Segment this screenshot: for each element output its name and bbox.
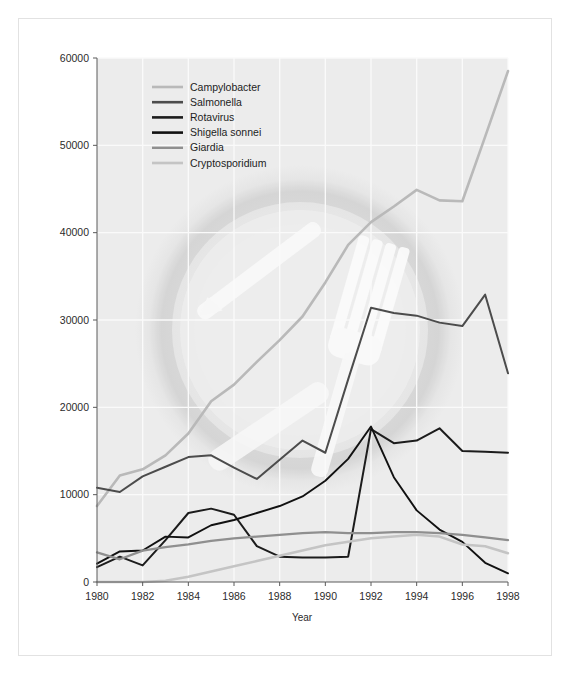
legend-label-salmonella: Salmonella bbox=[190, 96, 242, 108]
y-tick-label: 60000 bbox=[60, 52, 89, 64]
x-tick-label: 1990 bbox=[314, 590, 338, 602]
x-tick-label: 1986 bbox=[222, 590, 246, 602]
y-tick-label: 0 bbox=[83, 576, 89, 588]
x-tick-label: 1988 bbox=[268, 590, 292, 602]
x-tick-label: 1982 bbox=[131, 590, 155, 602]
x-tick-label: 1994 bbox=[405, 590, 429, 602]
page-root: 0100002000030000400005000060000 19801982… bbox=[0, 0, 570, 677]
x-axis-title: Year bbox=[292, 612, 313, 623]
x-axis-tick-labels: 1980198219841986198819901992199419961998 bbox=[85, 582, 520, 602]
chart-svg: 0100002000030000400005000060000 19801982… bbox=[0, 0, 570, 677]
legend-label-shigella-sonnei: Shigella sonnei bbox=[190, 126, 261, 138]
legend-label-giardia: Giardia bbox=[190, 141, 224, 153]
watermark-image bbox=[135, 165, 465, 495]
y-tick-label: 50000 bbox=[60, 139, 89, 151]
x-tick-label: 1992 bbox=[359, 590, 383, 602]
y-tick-label: 20000 bbox=[60, 401, 89, 413]
y-tick-label: 10000 bbox=[60, 488, 89, 500]
x-tick-label: 1996 bbox=[451, 590, 475, 602]
line-chart: 0100002000030000400005000060000 19801982… bbox=[0, 0, 570, 677]
legend-label-rotavirus: Rotavirus bbox=[190, 111, 234, 123]
x-tick-label: 1984 bbox=[177, 590, 201, 602]
y-tick-label: 40000 bbox=[60, 226, 89, 238]
y-tick-label: 30000 bbox=[60, 314, 89, 326]
x-tick-label: 1998 bbox=[496, 590, 520, 602]
legend-label-campylobacter: Campylobacter bbox=[190, 81, 261, 93]
legend-label-cryptosporidium: Cryptosporidium bbox=[190, 157, 267, 169]
y-axis-tick-labels: 0100002000030000400005000060000 bbox=[60, 52, 97, 588]
x-tick-label: 1980 bbox=[85, 590, 109, 602]
